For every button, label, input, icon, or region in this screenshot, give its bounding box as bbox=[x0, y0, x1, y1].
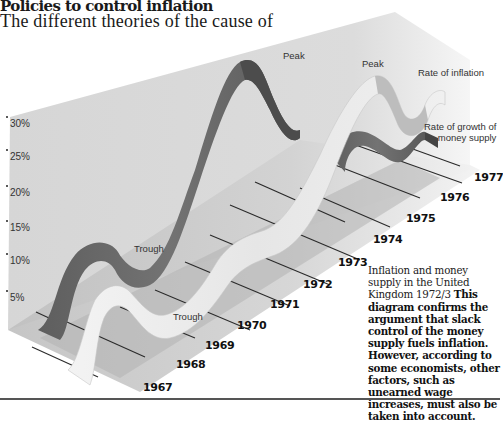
y-tick-25: 25% bbox=[10, 151, 30, 162]
caption-body: This diagram confirms the argument that … bbox=[368, 288, 500, 422]
tick-dot bbox=[6, 290, 8, 292]
y-tick-5: 5% bbox=[10, 292, 24, 303]
tick-dot bbox=[6, 185, 8, 187]
y-tick-30: 30% bbox=[10, 118, 30, 129]
year-label-1976: 1976 bbox=[440, 191, 469, 204]
year-label-1975: 1975 bbox=[406, 212, 435, 225]
legend-money-supply: Rate of growth of money supply bbox=[424, 121, 496, 143]
year-label-1977: 1977 bbox=[474, 171, 503, 184]
trough-label-money: Trough bbox=[134, 243, 164, 254]
year-label-1967: 1967 bbox=[143, 381, 172, 394]
peak-label-inflation: Peak bbox=[362, 58, 384, 69]
year-label-1971: 1971 bbox=[270, 298, 299, 311]
y-tick-15: 15% bbox=[10, 222, 30, 233]
year-label-1969: 1969 bbox=[205, 339, 234, 352]
tick-dot bbox=[6, 149, 8, 151]
year-label-1972: 1972 bbox=[303, 278, 332, 291]
peak-label-money: Peak bbox=[283, 50, 305, 61]
year-label-1968: 1968 bbox=[176, 358, 205, 371]
tick-dot bbox=[6, 116, 8, 118]
tick-dot bbox=[6, 220, 8, 222]
y-tick-10: 10% bbox=[10, 255, 30, 266]
year-label-1970: 1970 bbox=[237, 319, 266, 332]
trough-label-inflation: Trough bbox=[173, 311, 203, 322]
tick-dot bbox=[6, 253, 8, 255]
bottom-rule bbox=[0, 398, 500, 400]
y-tick-20: 20% bbox=[10, 187, 30, 198]
year-label-1973: 1973 bbox=[338, 256, 367, 269]
legend-inflation: Rate of inflation bbox=[418, 67, 484, 78]
year-label-1974: 1974 bbox=[373, 233, 402, 246]
